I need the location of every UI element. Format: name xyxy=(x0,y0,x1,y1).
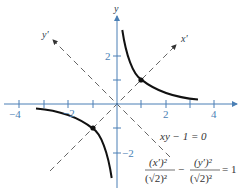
vertex-point-lower xyxy=(90,125,95,130)
rotated-equation: (x′)² (√2)² − (y′)² (√2)² = 1 xyxy=(145,156,236,185)
x-prime-label: x′ xyxy=(180,33,188,44)
rotated-y-axis xyxy=(53,40,170,157)
vertex-point-upper xyxy=(138,77,143,82)
equation-xy: xy − 1 = 0 xyxy=(159,130,207,142)
eq-denominator-2: (√2)² xyxy=(190,172,213,185)
x-axis xyxy=(4,100,237,108)
y-axis xyxy=(113,16,121,188)
y-axis-label: y xyxy=(113,3,119,14)
y-tick-neg2: −2 xyxy=(122,147,134,159)
y-tick-2: 2 xyxy=(105,50,111,62)
eq-numerator-1: (x′)² xyxy=(149,156,168,169)
eq-denominator-1: (√2)² xyxy=(145,172,168,185)
hyperbola-diagram: y x′ y′ −4 −2 2 4 2 −2 xy − 1 = 0 (x′)² … xyxy=(0,0,240,191)
y-prime-label: y′ xyxy=(41,29,49,40)
x-tick-neg2: −2 xyxy=(63,107,75,119)
eq-minus: − xyxy=(178,163,184,175)
x-tick-4: 4 xyxy=(211,108,217,120)
eq-rhs: = 1 xyxy=(222,163,236,175)
x-tick-neg4: −4 xyxy=(9,108,21,120)
x-tick-2: 2 xyxy=(163,108,169,120)
eq-numerator-2: (y′)² xyxy=(194,156,213,169)
